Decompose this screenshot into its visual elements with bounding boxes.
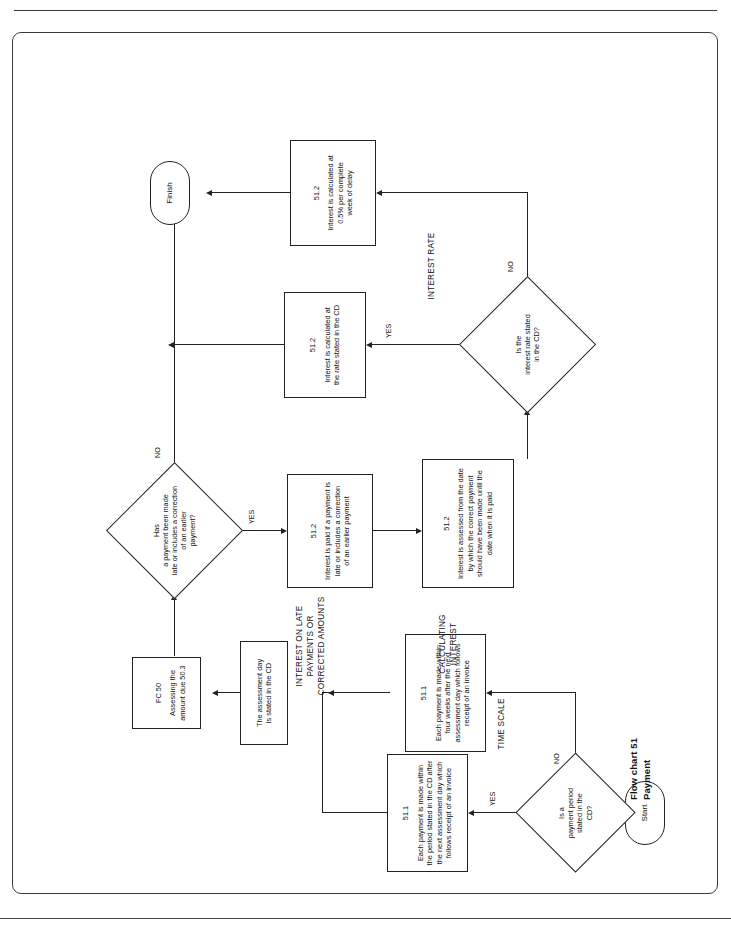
edge-period-box-up [322, 812, 387, 813]
arrowhead-four-weeks-box [486, 691, 492, 697]
node-51-1-four-weeks-number: 51.1 [419, 644, 428, 743]
dr-line1: Is the [514, 336, 523, 354]
sil-line1: INTEREST ON LATE [295, 605, 304, 686]
edge-rate-default-to-finish [212, 192, 290, 193]
sci-line1: CALCULATING [438, 614, 447, 673]
bp-line2: the period stated in the CD after [425, 761, 434, 866]
node-decision-late-payment[interactable]: Has a payment been made late or includes… [106, 462, 243, 599]
bas-line2: by which the correct payment [466, 475, 475, 571]
figure-caption: Flow chart 51 Payment [628, 738, 653, 800]
node-51-2-rate-in-cd-number: 51.2 [308, 305, 317, 385]
arrowhead-assessment-box [328, 691, 334, 697]
node-finish[interactable]: Finish [150, 161, 190, 225]
node-51-2-interest-assessed-number: 51.2 [442, 468, 451, 579]
bpd-line3: of an earlier payment [342, 496, 351, 565]
arrowhead-rate-default-box [376, 191, 382, 197]
dl-line5: payment? [188, 514, 197, 546]
brc-line2: the rate stated in the CD [332, 305, 341, 385]
node-51-2-rate-in-cd-text: Interest is calculated at the rate state… [323, 305, 342, 385]
flowchart-canvas: Start Is a payment period stated in the … [22, 32, 694, 878]
document-page: Start Is a payment period stated in the … [0, 0, 731, 940]
node-fc50-number: FC 50 [154, 665, 163, 720]
edge-rate-yes-up [372, 344, 466, 345]
edge-rate-cd-to-finish [174, 344, 284, 345]
node-finish-label: Finish [165, 182, 174, 203]
page-bottom-rule [0, 918, 731, 919]
node-assessment-day-text: The assessment day is stated in the CD [255, 659, 274, 727]
dl-line1: Has [151, 524, 160, 537]
brd-line1: Interest is calculated at [326, 155, 335, 231]
bas-line1: Interest is assessed from the date [456, 468, 465, 579]
node-51-1-period[interactable]: 51.1 Each payment is made within the per… [387, 754, 468, 872]
node-51-2-rate-default-text: Interest is calculated at 0.5% per compl… [326, 155, 354, 231]
reference-strip [132, 657, 141, 729]
arrowhead-rate-cd-box [366, 343, 372, 349]
dpp-line4: CD? [584, 806, 593, 821]
edge-label-payment-period-yes: YES [488, 792, 497, 806]
node-assessment-day[interactable]: The assessment day is stated in the CD [240, 641, 288, 745]
dpp-line3: stated in the [575, 793, 584, 833]
node-fc50-reference[interactable]: FC 50 Assessing the amount due 50.3 [140, 657, 201, 729]
brd-line3: week of delay [345, 170, 354, 215]
edge-four-weeks-up [334, 692, 390, 693]
bp-line3: the next assessment day which [435, 762, 444, 865]
edge-label-late-payment-yes: YES [247, 510, 256, 524]
dl-line3: late or includes a correction [170, 486, 179, 575]
node-51-2-interest-assessed[interactable]: 51.2 Interest is assessed from the date … [422, 459, 514, 588]
arrowhead-period-box [468, 811, 474, 817]
page-top-rule [14, 10, 717, 11]
section-title-interest-rate: INTEREST RATE [426, 206, 437, 326]
edge-period-box-across [322, 693, 323, 813]
node-51-2-interest-assessed-text: Interest is assessed from the date by wh… [456, 468, 494, 579]
node-51-2-rate-in-cd[interactable]: 51.2 Interest is calculated at the rate … [284, 292, 366, 398]
node-51-2-interest-paid[interactable]: 51.2 Interest is paid if a payment is la… [287, 474, 373, 588]
brc-line1: Interest is calculated at [323, 307, 332, 383]
brd-line2: 0.5% per complete [336, 162, 345, 224]
node-fc50-text: Assessing the amount due 50.3 [168, 665, 187, 720]
node-51-2-rate-default-number: 51.2 [312, 155, 321, 231]
node-51-2-rate-default[interactable]: 51.2 Interest is calculated at 0.5% per … [290, 140, 376, 246]
edge-rate-no-up [382, 192, 528, 193]
edge-fc50-to-late-decision [174, 598, 175, 656]
figure-caption-line1: Flow chart 51 [628, 738, 639, 800]
dpp-line2: payment period [566, 788, 575, 838]
edge-paid-to-assessed [372, 530, 418, 531]
node-decision-payment-period-label: Is a payment period stated in the CD? [557, 770, 594, 856]
sil-line3: CORRECTED AMOUNTS [317, 597, 326, 696]
edge-label-late-payment-no: NO [153, 447, 162, 458]
section-title-time-scale: TIME SCALE [496, 664, 507, 784]
arrowhead-fc50 [212, 691, 218, 697]
sci-line2: INTEREST [449, 623, 458, 666]
edge-assessed-to-rate-decision [527, 413, 528, 459]
dl-line2: a payment been made [161, 494, 170, 567]
bas-line3: should have been made until the [475, 470, 484, 577]
sil-line2: PAYMENTS OR [306, 615, 315, 676]
edge-label-interest-rate-no: NO [506, 261, 515, 272]
node-decision-interest-rate-label: Is the interest rate stated in the CD? [514, 292, 542, 396]
fc-line1: Assessing the [168, 670, 177, 716]
edge-label-payment-period-no: NO [552, 753, 561, 764]
node-decision-interest-rate[interactable]: Is the interest rate stated in the CD? [459, 276, 596, 413]
figure-caption-line2: Payment [641, 760, 652, 800]
edge-rate-no-across [527, 192, 528, 277]
edge-label-interest-rate-yes: YES [384, 324, 393, 338]
bp-line4: follows receipt of an invoice [444, 768, 453, 858]
dpp-line1: Is a [557, 807, 566, 819]
ba-line2: is stated in the CD [264, 663, 273, 723]
node-start-label: Start [640, 805, 649, 822]
section-title-calculating-interest: CALCULATING INTEREST [437, 596, 459, 692]
ba-line1: The assessment day [255, 659, 264, 727]
node-51-1-period-text: Each payment is made within the period s… [416, 761, 454, 866]
node-51-2-interest-paid-number: 51.2 [309, 482, 318, 580]
arrowhead-finish-from-rate-cd [168, 343, 174, 349]
bf-line4: receipt of an invoice [462, 660, 471, 726]
bas-line4: date when it is paid [485, 492, 494, 555]
node-51-2-interest-paid-text: Interest is paid if a payment is late or… [323, 482, 351, 580]
bpd-line2: late or includes a correction [333, 486, 342, 576]
dr-line2: interest rate stated [523, 314, 532, 374]
dl-line4: of an earlier [179, 511, 188, 550]
node-51-1-period-number: 51.1 [401, 761, 410, 866]
dr-line3: in the CD? [532, 327, 541, 361]
node-decision-payment-period[interactable]: Is a payment period stated in the CD? [515, 753, 635, 873]
fc-line2: amount due 50.3 [178, 665, 187, 720]
